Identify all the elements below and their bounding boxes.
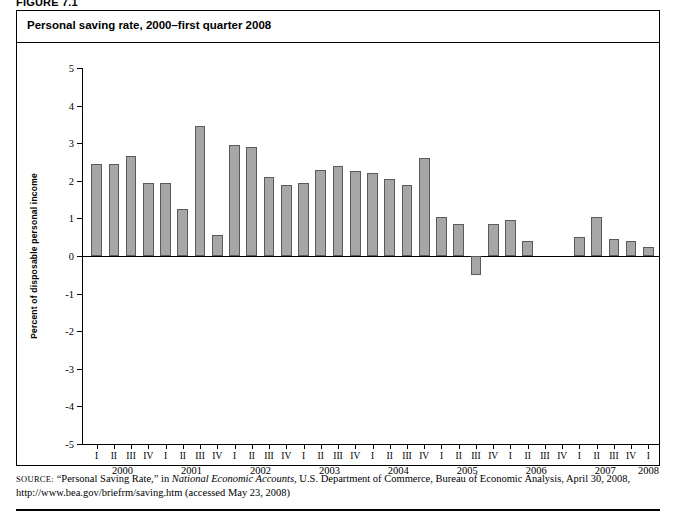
quarter-label: II bbox=[318, 451, 324, 461]
bar bbox=[246, 147, 257, 256]
bar bbox=[488, 224, 499, 256]
quarter-label: IV bbox=[488, 451, 498, 461]
figure-number: FIGURE 7.1 bbox=[16, 0, 78, 8]
bar bbox=[591, 217, 602, 256]
x-tick-mark bbox=[424, 444, 425, 449]
x-tick-mark bbox=[390, 444, 391, 449]
bar bbox=[419, 158, 430, 256]
x-tick-mark bbox=[579, 444, 580, 449]
x-tick-mark bbox=[183, 444, 184, 449]
x-tick-mark bbox=[114, 444, 115, 449]
bar bbox=[402, 185, 413, 256]
quarter-label: I bbox=[578, 451, 581, 461]
source-publication: National Economic Accounts bbox=[172, 473, 294, 484]
quarter-label: III bbox=[471, 451, 481, 461]
bar bbox=[143, 183, 154, 256]
y-tick-label: 4 bbox=[69, 100, 74, 111]
figure-frame: Personal saving rate, 2000–first quarter… bbox=[16, 10, 660, 466]
y-axis-title: Percent of disposable personal income bbox=[29, 173, 39, 339]
x-tick-mark bbox=[235, 444, 236, 449]
bar bbox=[522, 241, 533, 256]
bar bbox=[126, 156, 137, 256]
quarter-label: I bbox=[371, 451, 374, 461]
quarter-label: IV bbox=[350, 451, 360, 461]
quarter-label: III bbox=[609, 451, 619, 461]
bar bbox=[195, 126, 206, 256]
quarter-label: II bbox=[180, 451, 186, 461]
x-tick-mark bbox=[459, 444, 460, 449]
bar-series bbox=[82, 68, 659, 444]
bar bbox=[626, 241, 637, 256]
bar bbox=[212, 235, 223, 256]
chart-plot-area: Percent of disposable personal income 54… bbox=[82, 68, 659, 444]
x-tick-mark bbox=[648, 444, 649, 449]
y-tick-label: 0 bbox=[69, 251, 74, 262]
bar bbox=[281, 185, 292, 256]
quarter-label: III bbox=[333, 451, 343, 461]
source-note: SOURCE: “Personal Saving Rate,” in Natio… bbox=[16, 472, 662, 500]
figure-page: FIGURE 7.1 Personal saving rate, 2000–fi… bbox=[0, 0, 676, 518]
quarter-label: II bbox=[249, 451, 255, 461]
x-tick-mark bbox=[286, 444, 287, 449]
quarter-label: IV bbox=[212, 451, 222, 461]
quarter-label: III bbox=[540, 451, 550, 461]
figure-title: Personal saving rate, 2000–first quarter… bbox=[27, 19, 271, 31]
x-tick-mark bbox=[476, 444, 477, 449]
x-tick-mark bbox=[493, 444, 494, 449]
y-tick-label: -5 bbox=[65, 439, 74, 450]
bar bbox=[229, 145, 240, 256]
x-tick-mark bbox=[407, 444, 408, 449]
x-tick-mark bbox=[321, 444, 322, 449]
x-tick-mark bbox=[166, 444, 167, 449]
quarter-label: I bbox=[647, 451, 650, 461]
x-tick-mark bbox=[217, 444, 218, 449]
bar bbox=[643, 247, 654, 256]
quarter-label: II bbox=[387, 451, 393, 461]
y-tick-label: 1 bbox=[69, 213, 74, 224]
quarter-label: I bbox=[302, 451, 305, 461]
source-prefix: SOURCE: bbox=[16, 474, 54, 484]
bar bbox=[109, 164, 120, 256]
quarter-label: IV bbox=[557, 451, 567, 461]
quarter-label: I bbox=[509, 451, 512, 461]
x-tick-mark bbox=[545, 444, 546, 449]
quarter-label: I bbox=[233, 451, 236, 461]
x-tick-mark bbox=[269, 444, 270, 449]
bar bbox=[436, 217, 447, 256]
quarter-label: III bbox=[126, 451, 136, 461]
bar bbox=[333, 166, 344, 256]
x-tick-mark bbox=[441, 444, 442, 449]
quarter-label: IV bbox=[143, 451, 153, 461]
bar bbox=[91, 164, 102, 256]
quarter-label: I bbox=[164, 451, 167, 461]
bar bbox=[177, 209, 188, 256]
x-tick-mark bbox=[510, 444, 511, 449]
quarter-label: I bbox=[440, 451, 443, 461]
x-tick-mark bbox=[200, 444, 201, 449]
bar bbox=[384, 179, 395, 256]
quarter-label: III bbox=[195, 451, 205, 461]
source-text-a: “Personal Saving Rate,” in bbox=[57, 473, 172, 484]
quarter-label: II bbox=[111, 451, 117, 461]
source-url: http://www.bea.gov/briefrm/saving.htm (a… bbox=[16, 487, 290, 498]
x-tick-mark bbox=[304, 444, 305, 449]
quarter-label: IV bbox=[419, 451, 429, 461]
y-tick-label: -4 bbox=[65, 401, 74, 412]
x-tick-mark bbox=[528, 444, 529, 449]
y-tick-label: -3 bbox=[65, 363, 74, 374]
x-tick-mark bbox=[97, 444, 98, 449]
x-tick-mark bbox=[355, 444, 356, 449]
bar bbox=[367, 173, 378, 256]
bar bbox=[160, 183, 171, 256]
bar bbox=[350, 171, 361, 256]
quarter-label: I bbox=[95, 451, 98, 461]
x-tick-mark bbox=[562, 444, 563, 449]
source-text-b: , U.S. Department of Commerce, Bureau of… bbox=[294, 473, 630, 484]
x-tick-mark bbox=[631, 444, 632, 449]
bar bbox=[505, 220, 516, 256]
bar bbox=[315, 170, 326, 256]
bar bbox=[609, 239, 620, 256]
bottom-divider bbox=[16, 509, 660, 511]
x-tick-mark bbox=[148, 444, 149, 449]
y-tick-label: 3 bbox=[69, 138, 74, 149]
